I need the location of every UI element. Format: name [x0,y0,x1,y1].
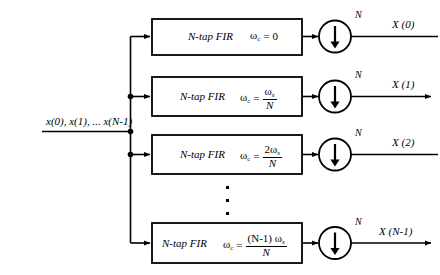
fir-filter-label-1: N-tap FIR [188,31,233,42]
equals-sign-3: = [253,151,259,162]
fraction-numerator-4: (N-1) ωs [246,233,287,246]
cutoff-fraction-4: (N-1) ωs N [246,233,287,259]
decimation-factor-label-3: N [355,128,362,138]
equals-sign-1: = [263,31,269,42]
fir-label-text-4: N-tap FIR [162,237,207,249]
decimation-factor-label-1: N [355,10,362,20]
output-label-1: X (0) [392,19,414,30]
cutoff-fraction-2: ωs N [263,86,277,112]
equals-sign-4: = [236,240,242,251]
fir-label-text-3: N-tap FIR [180,148,225,160]
cutoff-value-1: 0 [273,31,279,42]
omega-c-symbol-4: ωc [223,239,233,252]
cutoff-expression-1: ωc = 0 [250,30,278,43]
output-label-3: X (2) [392,137,414,148]
cutoff-expression-3: ωc = 2ωs N [240,144,282,170]
fraction-denominator-3: N [267,158,278,170]
fraction-denominator-2: N [264,100,275,112]
cutoff-fraction-3: 2ωs N [263,144,282,170]
filter-bank-diagram: x(0), x(1), ... x(N-1) N-tap FIR ωc = 0 … [0,0,440,275]
fir-filter-label-3: N-tap FIR [180,149,225,160]
omega-c-symbol-1: ωc [250,30,260,43]
fraction-denominator-4: N [260,247,271,259]
equals-sign-2: = [253,93,259,104]
cutoff-expression-2: ωc = ωs N [240,86,277,112]
decimation-factor-label-2: N [355,70,362,80]
output-label-4: X (N-1) [379,226,412,237]
output-label-2: X (1) [392,79,414,90]
decimation-factor-label-4: N [355,217,362,227]
omega-c-symbol-3: ωc [240,150,250,163]
ellipsis-dot-2 [226,199,229,202]
ellipsis-dot-1 [226,186,229,189]
fir-filter-label-4: N-tap FIR [162,238,207,249]
fraction-numerator-3: 2ωs [263,144,282,157]
ellipsis-dot-3 [226,212,229,215]
fir-label-text-2: N-tap FIR [180,90,225,102]
fir-filter-label-2: N-tap FIR [180,91,225,102]
junction-dot-input [128,129,134,135]
fraction-numerator-2: ωs [263,86,277,99]
input-signal-label: x(0), x(1), ... x(N-1) [46,116,132,127]
cutoff-expression-4: ωc = (N-1) ωs N [223,233,287,259]
omega-c-symbol-2: ωc [240,92,250,105]
fir-label-text-1: N-tap FIR [188,30,233,42]
fir-box-2 [152,77,302,116]
